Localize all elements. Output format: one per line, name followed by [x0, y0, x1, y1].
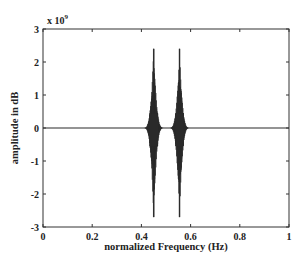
y-tick-label: 1 — [34, 90, 39, 101]
chart: 00.20.40.60.81 -3-2-10123 normalized Fre… — [0, 0, 304, 267]
plot-series — [43, 49, 289, 217]
x-tick-label: 1 — [287, 231, 292, 242]
y-axis-label: amplitude in dB — [9, 92, 20, 164]
x-tick-label: 0.8 — [234, 231, 247, 242]
x-axis: 00.20.40.60.81 — [41, 29, 292, 242]
x-axis-label: normalized Frequency (Hz) — [104, 241, 228, 253]
y-tick-label: 2 — [34, 57, 39, 68]
x-tick-label: 0 — [41, 231, 46, 242]
y-multiplier: x 109 — [47, 13, 69, 26]
y-tick-label: -3 — [31, 222, 39, 233]
x-tick-label: 0.2 — [86, 231, 99, 242]
y-tick-label: -1 — [31, 156, 39, 167]
y-tick-label: 0 — [34, 123, 39, 134]
y-tick-label: 3 — [34, 24, 39, 35]
y-tick-label: -2 — [31, 189, 39, 200]
